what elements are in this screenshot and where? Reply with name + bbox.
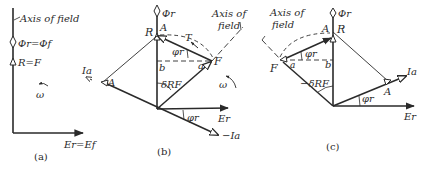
flux-label: Φr=Φf: [18, 38, 54, 49]
axis-pointer: [262, 36, 265, 40]
flux-diamond-icon: [154, 5, 160, 17]
axis-label-1: Axis of: [269, 7, 306, 18]
caption-c: (c): [326, 141, 340, 152]
neg-Ia-label: −Ia: [222, 130, 240, 141]
flux-diamond-icon: [330, 8, 336, 18]
axis-label-2: field: [217, 20, 240, 31]
A-left-label: A: [107, 77, 115, 88]
A-left-arrow-icon: [101, 80, 108, 86]
A-top-label: A: [321, 23, 329, 34]
Ia-label: Ia: [406, 66, 417, 77]
flux-label: Φr: [338, 8, 352, 19]
caption-b: (b): [157, 146, 171, 157]
phi-bottom-label: φr: [187, 112, 200, 123]
emf-label: Er: [403, 111, 417, 122]
field-axis-line: [262, 40, 281, 60]
A-right-label: A: [383, 86, 391, 97]
panel-c: Axis of field Φr A R b a F φr −δRF A: [262, 7, 417, 152]
torque-arrow: [191, 42, 198, 48]
a-label: a: [198, 60, 204, 71]
F-label: F: [213, 55, 222, 68]
panel-a: Axis of field Φr=Φf R=F ω Er=Ef (a): [10, 8, 98, 162]
T-label: T: [185, 32, 193, 43]
axis-label-1: Axis of: [211, 8, 248, 19]
Ia-label: Ia: [81, 65, 92, 76]
Ia-phasor-stub: [86, 77, 92, 80]
emf-label: Er: [217, 113, 231, 124]
emf-phasor: [157, 108, 228, 109]
F-arrow-icon: [280, 56, 287, 62]
axis-of-field-label: Axis of field: [19, 13, 79, 24]
omega-label: ω: [36, 89, 44, 100]
phi-bottom-label: φr: [362, 93, 375, 104]
emf-label: Er=Ef: [63, 139, 98, 150]
R-label: R: [336, 23, 345, 36]
phi-label: φr: [305, 48, 318, 59]
phi-angle-tick: [301, 52, 302, 60]
b-label: b: [325, 59, 331, 70]
panel-b-ia: Ia: [81, 65, 92, 80]
b-label: b: [159, 62, 165, 73]
delta-label: δRF: [161, 79, 183, 90]
panel-b: Φr R A b a F φr T Axis of field A −Ia: [101, 5, 248, 157]
mmf-label: R=F: [17, 57, 42, 68]
parallelogram-side: [103, 36, 157, 82]
rotation-arrow-icon: [39, 83, 48, 86]
R-label: R: [144, 26, 153, 39]
flux-diamond-icon: [10, 36, 16, 48]
parallelogram-side: [333, 32, 388, 81]
flux-label: Φr: [162, 8, 176, 19]
phi-label: φr: [172, 46, 185, 57]
A-top-label: A: [159, 22, 167, 33]
caption-a: (a): [34, 151, 48, 162]
mmf-arrow-icon: [10, 58, 16, 65]
omega-label: ω: [219, 79, 227, 90]
phi-bottom-tick: [359, 96, 360, 106]
F-label: F: [269, 62, 278, 75]
rotation-arrow-icon: [226, 76, 236, 88]
phasor-diagrams: Axis of field Φr=Φf R=F ω Er=Ef (a) Φr R…: [0, 0, 428, 169]
axis-label-2: field: [271, 19, 294, 30]
delta-label: −δRF: [300, 78, 330, 89]
